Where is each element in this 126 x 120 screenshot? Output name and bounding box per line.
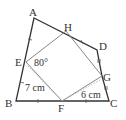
label-b: B bbox=[5, 97, 12, 109]
label-a: A bbox=[29, 6, 37, 18]
geometry-diagram: A H D G C F B E 80° 7 cm 6 cm bbox=[0, 0, 126, 120]
length-ef-label: 7 cm bbox=[25, 82, 45, 93]
label-d: D bbox=[99, 40, 107, 52]
label-f: F bbox=[58, 102, 64, 114]
label-c: C bbox=[110, 97, 117, 109]
label-e: E bbox=[15, 56, 22, 68]
length-fg-label: 6 cm bbox=[81, 89, 101, 100]
label-h: H bbox=[64, 21, 72, 33]
label-g: G bbox=[103, 71, 111, 83]
angle-e-label: 80° bbox=[34, 57, 48, 68]
